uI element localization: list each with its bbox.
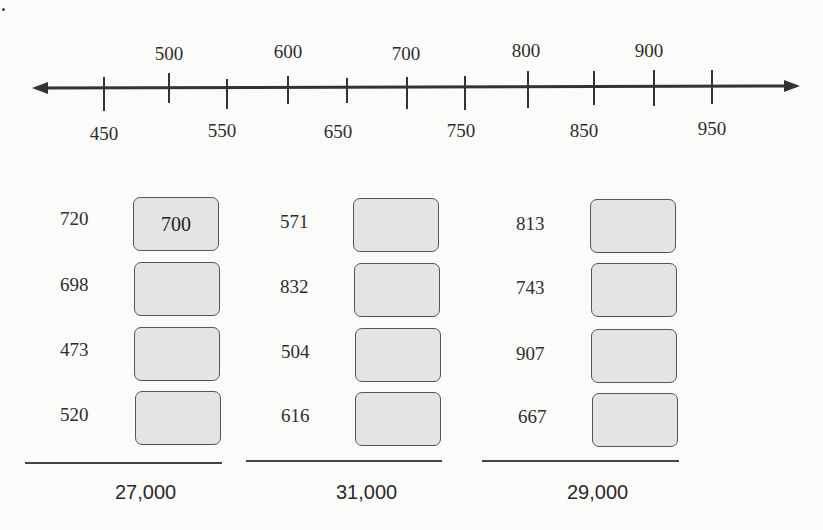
- rounded-answer-box[interactable]: [592, 393, 678, 447]
- estimated-total: 29,000: [567, 481, 628, 504]
- addend: 616: [281, 405, 310, 427]
- addend: 907: [516, 343, 545, 365]
- addend: 520: [60, 404, 89, 426]
- estimated-total: 31,000: [336, 481, 397, 504]
- addend: 720: [60, 208, 89, 230]
- tick-label-below: 550: [208, 120, 237, 142]
- sum-line: [482, 460, 679, 462]
- rounded-answer-box[interactable]: [134, 262, 220, 316]
- addend: 813: [516, 213, 545, 235]
- tick-label-above: 600: [274, 41, 303, 63]
- rounded-answer-box[interactable]: 700: [133, 197, 219, 251]
- rounded-answer-box[interactable]: [135, 391, 221, 445]
- tick-label-below: 750: [447, 120, 476, 142]
- rounded-answer-box[interactable]: [134, 327, 220, 381]
- rounded-answer-box[interactable]: [355, 328, 441, 382]
- tick-label-above: 800: [512, 40, 541, 62]
- addend: 571: [280, 211, 309, 233]
- addend: 743: [516, 277, 545, 299]
- sum-line: [246, 460, 442, 462]
- left-arrow-icon: [32, 82, 48, 94]
- rounded-answer-box[interactable]: [591, 329, 677, 383]
- rounded-answer-box[interactable]: [354, 263, 440, 317]
- tick-label-below: 850: [570, 120, 599, 142]
- rounded-answer-box[interactable]: [590, 199, 676, 253]
- tick-label-above: 700: [392, 43, 421, 65]
- addend: 504: [281, 341, 310, 363]
- addend: 473: [60, 339, 89, 361]
- estimated-total: 27,000: [115, 481, 176, 504]
- rounded-answer-box[interactable]: [355, 392, 441, 446]
- rounded-answer-box[interactable]: [353, 198, 439, 252]
- tick-label-above: 900: [635, 40, 664, 62]
- addend: 832: [280, 276, 309, 298]
- right-arrow-icon: [784, 80, 800, 92]
- addend: 667: [518, 406, 547, 428]
- tick-label-above: 500: [155, 43, 184, 65]
- rounded-answer-box[interactable]: [591, 263, 677, 317]
- tick-label-below: 950: [698, 118, 727, 140]
- tick-label-below: 650: [324, 121, 353, 143]
- tick-label-below: 450: [90, 123, 119, 145]
- sum-line: [25, 462, 222, 464]
- addend: 698: [60, 274, 89, 296]
